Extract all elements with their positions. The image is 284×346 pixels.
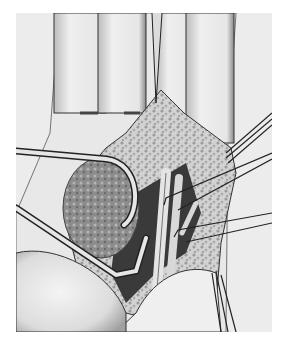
illustration-svg — [16, 13, 272, 332]
finger-middle — [98, 13, 146, 113]
surgical-illustration — [16, 13, 272, 332]
